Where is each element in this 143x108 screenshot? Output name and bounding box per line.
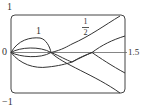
plot-canvas (0, 0, 143, 108)
curve-label-1: 1 (36, 26, 41, 36)
y-min-label: −1 (2, 97, 13, 107)
fraction-denominator: 2 (84, 28, 88, 37)
x-max-label: 1.5 (128, 48, 139, 57)
curve-1 (11, 38, 120, 93)
curve-half (11, 16, 120, 53)
fraction-numerator: 1 (84, 17, 88, 26)
y-max-label: 1 (7, 2, 12, 12)
curve-4 (11, 53, 125, 74)
plot-frame (11, 15, 125, 93)
curve-label-half: 1 2 (81, 18, 90, 37)
curve-3 (11, 36, 125, 62)
origin-label: 0 (2, 47, 7, 57)
